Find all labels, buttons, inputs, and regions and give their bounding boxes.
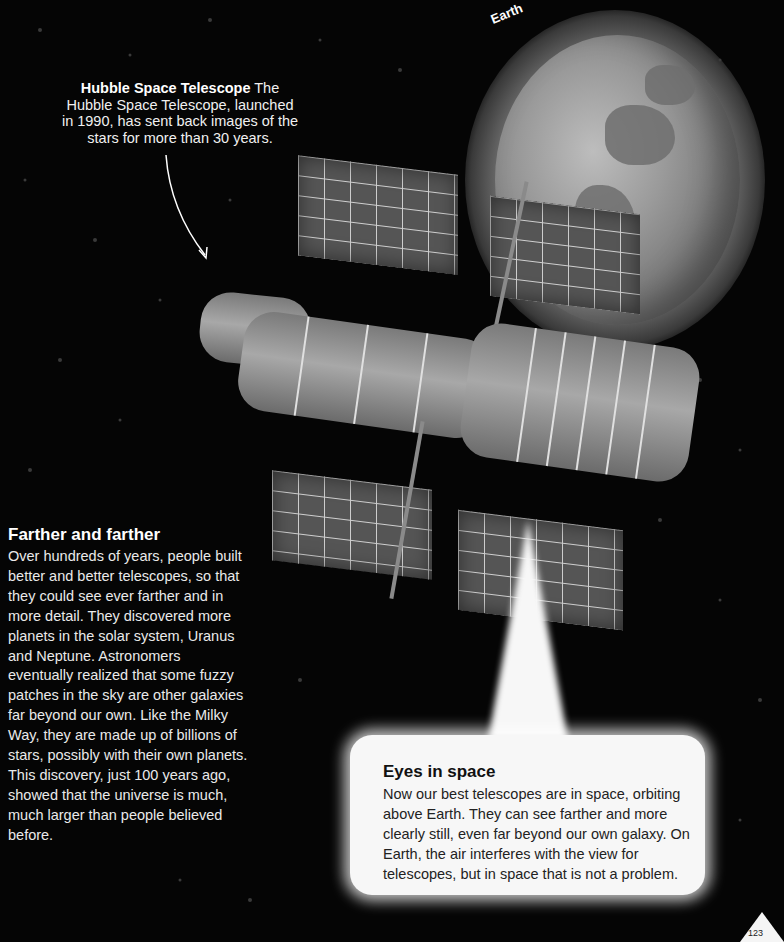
farther-section: Farther and farther Over hundreds of yea… bbox=[8, 525, 248, 846]
farther-heading: Farther and farther bbox=[8, 525, 248, 545]
solar-panel-upper-left bbox=[298, 155, 458, 275]
speech-bubble-tail bbox=[488, 520, 568, 740]
eyes-heading: Eyes in space bbox=[383, 762, 703, 782]
eyes-section: Eyes in space Now our best telescopes ar… bbox=[383, 762, 703, 884]
farther-body: Over hundreds of years, people built bet… bbox=[8, 547, 248, 846]
page-number: 123 bbox=[748, 928, 763, 938]
eyes-body: Now our best telescopes are in space, or… bbox=[383, 784, 703, 884]
